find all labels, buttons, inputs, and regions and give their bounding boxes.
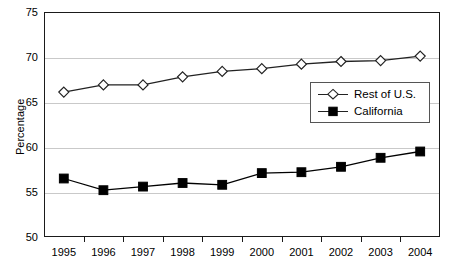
x-tick-label-2003: 2003 [361, 247, 401, 258]
data-point [99, 186, 108, 195]
data-point [257, 64, 267, 74]
legend-label-rest-of-us: Rest of U.S. [354, 88, 416, 100]
x-tick-mark [202, 237, 203, 242]
line-chart: Percentage 75 70 65 60 55 50 1995 1996 1… [0, 0, 455, 267]
data-point [138, 80, 148, 90]
series-line-california [64, 152, 420, 191]
x-tick-mark [282, 237, 283, 242]
data-point [416, 147, 425, 156]
x-tick-mark [400, 237, 401, 242]
data-point [297, 168, 306, 177]
x-tick-label-2001: 2001 [281, 247, 321, 258]
series-layer [0, 0, 455, 267]
data-point [376, 153, 385, 162]
data-point [217, 66, 227, 76]
x-tick-label-1997: 1997 [123, 247, 163, 258]
x-tick-mark [321, 237, 322, 242]
data-point [178, 72, 188, 82]
x-tick-mark [242, 237, 243, 242]
data-point [336, 57, 346, 67]
filled-square-marker-icon [318, 105, 348, 117]
legend-entry-rest-of-us: Rest of U.S. [318, 86, 416, 102]
x-tick-label-1999: 1999 [202, 247, 242, 258]
x-tick-label-1995: 1995 [44, 247, 84, 258]
data-point [415, 51, 425, 61]
x-tick-label-1998: 1998 [163, 247, 203, 258]
x-tick-mark [361, 237, 362, 242]
data-point [178, 179, 187, 188]
data-point [59, 174, 68, 183]
data-point [59, 87, 69, 97]
x-tick-mark [84, 237, 85, 242]
x-tick-label-1996: 1996 [83, 247, 123, 258]
legend-entry-california: California [318, 103, 403, 119]
data-point [296, 59, 306, 69]
data-point [98, 80, 108, 90]
data-point [218, 180, 227, 189]
x-tick-mark [123, 237, 124, 242]
data-point [337, 162, 346, 171]
x-tick-label-2002: 2002 [321, 247, 361, 258]
open-diamond-marker-icon [318, 88, 348, 100]
data-point [376, 56, 386, 66]
data-point [257, 169, 266, 178]
data-point [139, 182, 148, 191]
x-tick-label-2004: 2004 [400, 247, 440, 258]
x-tick-label-2000: 2000 [242, 247, 282, 258]
legend-label-california: California [354, 105, 403, 117]
x-tick-mark [163, 237, 164, 242]
